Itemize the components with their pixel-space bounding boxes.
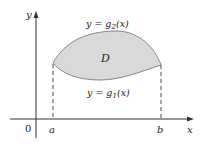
y-axis-arrow-icon bbox=[34, 11, 39, 18]
upper-curve-label: y = g2(x) bbox=[85, 18, 129, 31]
lower-curve-label: y = g1(x) bbox=[86, 87, 130, 100]
region-label: D bbox=[100, 52, 110, 65]
upper-curve-prefix: y = g bbox=[85, 18, 111, 29]
x-axis-arrow-icon bbox=[187, 117, 194, 122]
lower-curve-suffix: (x) bbox=[117, 87, 130, 98]
region-diagram: y x 0 a b D y = g2(x) y = g1(x) bbox=[0, 0, 201, 146]
bound-b-label: b bbox=[157, 124, 163, 135]
origin-label: 0 bbox=[25, 123, 31, 134]
x-axis-label: x bbox=[187, 124, 193, 135]
lower-curve-prefix: y = g bbox=[86, 87, 112, 98]
y-axis-label: y bbox=[25, 9, 32, 20]
bound-a-label: a bbox=[49, 124, 55, 135]
upper-curve-suffix: (x) bbox=[116, 18, 129, 29]
